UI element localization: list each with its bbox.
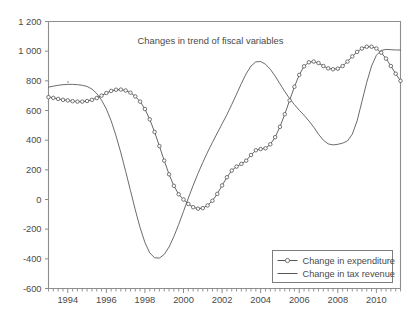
chart-title: Changes in trend of fiscal variables xyxy=(138,35,284,46)
data-point-marker xyxy=(389,64,393,68)
data-point-marker xyxy=(312,60,316,64)
data-point-marker xyxy=(148,118,152,122)
chart-figure: 1 2001 0008006004002000-200-400-600 1994… xyxy=(0,0,416,324)
data-point-marker xyxy=(85,99,89,103)
data-point-marker xyxy=(293,85,297,89)
data-point-marker xyxy=(244,159,248,163)
x-tick-label: 2010 xyxy=(366,295,387,305)
data-point-marker xyxy=(322,64,326,68)
data-point-marker xyxy=(162,159,166,163)
data-point-marker xyxy=(365,45,369,49)
x-tick-label: 2006 xyxy=(289,295,310,305)
data-point-marker xyxy=(124,89,128,93)
data-point-marker xyxy=(52,96,56,100)
data-point-marker xyxy=(143,107,147,111)
x-tick-label: 2000 xyxy=(173,295,194,305)
data-point-marker xyxy=(61,98,65,102)
data-point-marker xyxy=(235,165,239,169)
legend-label: Change in tax revenue xyxy=(303,269,395,279)
data-point-marker xyxy=(288,99,292,103)
data-point-marker xyxy=(370,45,374,49)
data-point-marker xyxy=(254,149,258,153)
data-point-marker xyxy=(196,207,200,211)
x-axis-tick-labels: 199419961998200020022004200620082010 xyxy=(57,295,386,305)
x-tick-label: 2004 xyxy=(250,295,271,305)
data-point-marker xyxy=(172,184,176,188)
data-point-marker xyxy=(259,147,263,151)
data-point-marker xyxy=(119,88,123,92)
data-point-marker xyxy=(326,67,330,71)
data-point-marker xyxy=(351,55,355,59)
data-point-marker xyxy=(336,67,340,71)
data-point-marker xyxy=(230,169,234,173)
data-point-marker xyxy=(269,143,273,147)
data-point-marker xyxy=(95,96,99,100)
fiscal-trend-line-chart: 1 2001 0008006004002000-200-400-600 1994… xyxy=(0,0,416,324)
data-point-marker xyxy=(220,184,224,188)
data-point-marker xyxy=(187,202,191,206)
data-point-marker xyxy=(138,100,142,104)
x-tick-label: 2008 xyxy=(327,295,348,305)
data-point-marker xyxy=(105,91,109,95)
data-point-marker xyxy=(114,88,118,92)
data-point-marker xyxy=(278,125,282,129)
data-point-marker xyxy=(264,147,268,151)
data-point-marker xyxy=(206,204,210,208)
data-point-marker xyxy=(216,192,220,196)
x-tick-label: 1996 xyxy=(96,295,117,305)
data-point-marker xyxy=(331,68,335,72)
data-point-marker xyxy=(47,95,51,99)
data-point-marker xyxy=(360,47,364,51)
data-point-marker xyxy=(297,73,301,77)
y-tick-label: 200 xyxy=(26,165,42,175)
data-point-marker xyxy=(158,144,162,148)
data-point-marker xyxy=(134,95,138,99)
data-point-marker xyxy=(56,97,60,101)
y-tick-label: -200 xyxy=(23,224,42,234)
data-point-marker xyxy=(394,72,398,76)
data-point-marker xyxy=(201,206,205,210)
legend-label: Change in expenditure xyxy=(303,256,395,266)
data-point-marker xyxy=(375,47,379,51)
data-point-marker xyxy=(307,61,311,65)
data-point-marker xyxy=(379,51,383,55)
x-tick-label: 1994 xyxy=(57,295,78,305)
data-point-marker xyxy=(191,205,195,209)
y-tick-label: -600 xyxy=(23,284,42,294)
chart-legend[interactable]: Change in expenditureChange in tax reven… xyxy=(273,251,395,283)
y-tick-label: 400 xyxy=(26,135,42,145)
data-point-marker xyxy=(177,193,181,197)
y-tick-label: -400 xyxy=(23,254,42,264)
data-point-marker xyxy=(109,89,113,93)
data-point-marker xyxy=(384,57,388,61)
y-tick-label: 600 xyxy=(26,106,42,116)
data-point-marker xyxy=(76,100,80,104)
x-tick-label: 1998 xyxy=(135,295,156,305)
data-point-marker xyxy=(211,199,215,203)
data-point-marker xyxy=(355,50,359,54)
data-point-marker xyxy=(100,94,104,98)
data-point-marker xyxy=(341,64,345,68)
data-point-marker xyxy=(283,112,287,116)
data-point-marker xyxy=(81,100,85,104)
data-point-marker xyxy=(317,61,321,65)
data-point-marker xyxy=(129,91,133,95)
data-point-marker xyxy=(71,99,75,103)
data-point-marker xyxy=(167,173,171,177)
data-point-marker xyxy=(240,162,244,166)
print-speck xyxy=(67,81,69,83)
y-tick-label: 1 200 xyxy=(18,17,41,27)
data-point-marker xyxy=(225,176,229,180)
data-point-marker xyxy=(346,60,350,64)
legend-marker-sample xyxy=(285,258,289,262)
data-point-marker xyxy=(153,130,157,134)
data-point-marker xyxy=(90,98,94,102)
data-point-marker xyxy=(249,153,253,157)
data-point-marker xyxy=(399,79,403,83)
y-tick-label: 800 xyxy=(26,76,42,86)
data-point-marker xyxy=(66,99,70,103)
y-tick-label: 0 xyxy=(36,195,41,205)
y-tick-label: 1 000 xyxy=(18,46,41,56)
data-point-marker xyxy=(302,65,306,69)
data-point-marker xyxy=(182,198,186,202)
